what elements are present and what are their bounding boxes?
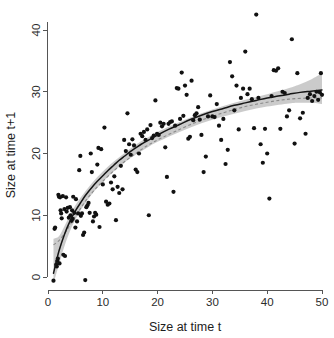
data-point — [83, 278, 87, 282]
data-point — [208, 93, 212, 97]
data-point — [51, 279, 55, 283]
data-point — [306, 96, 310, 100]
plot-background — [0, 0, 334, 338]
data-point — [295, 71, 299, 75]
data-point — [316, 98, 320, 102]
data-point — [145, 127, 149, 131]
data-point — [125, 111, 129, 115]
data-point — [78, 154, 82, 158]
data-point — [122, 138, 126, 142]
data-point — [219, 138, 223, 142]
data-point — [73, 226, 77, 230]
data-point — [215, 102, 219, 106]
data-point — [99, 147, 103, 151]
data-point — [232, 108, 236, 112]
data-point — [130, 137, 134, 141]
data-point — [127, 142, 131, 146]
data-point — [116, 185, 120, 189]
data-point — [293, 142, 297, 146]
data-point — [320, 93, 324, 97]
data-point — [254, 12, 258, 16]
data-point — [64, 195, 68, 199]
x-axis-tick-label: 10 — [96, 296, 109, 308]
y-axis-tick-label: 0 — [30, 274, 42, 280]
data-point — [241, 87, 245, 91]
data-point — [239, 96, 243, 100]
data-point — [109, 180, 113, 184]
data-point — [59, 211, 63, 215]
data-point — [114, 218, 118, 222]
data-point — [176, 87, 180, 91]
data-point — [185, 93, 189, 97]
data-point — [163, 145, 167, 149]
data-point — [194, 111, 198, 115]
data-point — [261, 161, 265, 165]
data-point — [183, 83, 187, 87]
data-point — [278, 127, 282, 131]
data-point — [148, 123, 152, 127]
data-point — [53, 226, 57, 230]
data-point — [124, 149, 128, 153]
x-axis-tick-label: 50 — [316, 296, 329, 308]
data-point — [111, 187, 115, 191]
data-point — [180, 71, 184, 75]
data-point — [217, 124, 221, 128]
data-point — [228, 60, 232, 64]
data-point — [132, 143, 136, 147]
data-point — [63, 254, 67, 258]
data-point — [212, 115, 216, 119]
data-point — [204, 154, 208, 158]
data-point — [91, 219, 95, 223]
data-point — [178, 117, 182, 121]
x-axis-tick-label: 30 — [206, 296, 219, 308]
data-point — [223, 162, 227, 166]
data-point — [140, 134, 144, 138]
data-point — [165, 175, 169, 179]
data-point — [102, 125, 106, 129]
y-axis-tick-label: 20 — [30, 147, 42, 160]
y-axis-title: Size at time t+1 — [4, 112, 18, 199]
data-point — [97, 225, 101, 229]
data-point — [147, 213, 151, 217]
data-point — [301, 111, 305, 115]
data-point — [198, 117, 202, 121]
data-point — [88, 211, 92, 215]
data-point — [263, 127, 267, 131]
data-point — [196, 105, 200, 109]
y-axis-tick-label: 30 — [30, 85, 42, 98]
data-point — [245, 92, 249, 96]
data-point — [265, 151, 269, 155]
data-point — [57, 261, 61, 265]
data-point — [199, 133, 203, 137]
data-point — [287, 108, 291, 112]
data-point — [107, 201, 111, 205]
data-point — [120, 187, 124, 191]
data-point — [170, 119, 174, 123]
data-point — [75, 219, 79, 223]
data-point — [181, 114, 185, 118]
data-point — [86, 201, 90, 205]
x-axis-tick-label: 0 — [45, 296, 51, 308]
y-axis-tick-label: 10 — [30, 209, 42, 222]
data-point — [230, 74, 234, 78]
data-point — [188, 135, 192, 139]
data-point — [319, 71, 323, 75]
data-point — [101, 182, 105, 186]
data-point — [119, 164, 123, 168]
data-point — [153, 98, 157, 102]
data-point — [189, 79, 193, 83]
data-point — [137, 151, 141, 155]
data-point — [252, 126, 256, 130]
data-point — [243, 50, 247, 54]
data-point — [112, 174, 116, 178]
data-point — [259, 142, 263, 146]
x-axis-tick-label: 20 — [151, 296, 164, 308]
data-point — [290, 37, 294, 41]
x-axis-tick-label: 40 — [261, 296, 274, 308]
data-point — [206, 114, 210, 118]
data-point — [237, 127, 241, 131]
data-point — [267, 196, 271, 200]
data-point — [90, 170, 94, 174]
data-point — [65, 209, 69, 213]
data-point — [221, 117, 225, 121]
